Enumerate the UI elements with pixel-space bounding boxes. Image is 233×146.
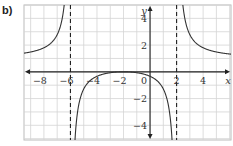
x-axis-label: x bbox=[225, 75, 231, 86]
function-graph: −8−6−4−224042−2−4xy bbox=[0, 0, 233, 146]
y-tick-label: 2 bbox=[141, 40, 147, 51]
origin-label: 0 bbox=[141, 75, 147, 86]
x-tick-label: 4 bbox=[200, 75, 206, 86]
x-tick-label: −6 bbox=[59, 75, 73, 86]
y-tick-label: −4 bbox=[133, 120, 147, 131]
x-tick-label: −4 bbox=[86, 75, 100, 86]
y-axis-label: y bbox=[140, 5, 147, 16]
y-tick-label: −2 bbox=[133, 93, 147, 104]
x-tick-label: −8 bbox=[33, 75, 47, 86]
plot-frame bbox=[24, 5, 231, 140]
x-tick-label: 2 bbox=[174, 75, 180, 86]
x-tick-label: −2 bbox=[113, 75, 127, 86]
